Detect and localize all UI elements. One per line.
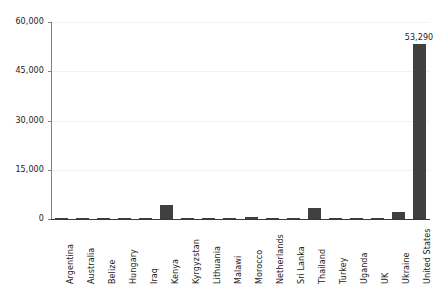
bar [97, 218, 110, 219]
bar [118, 218, 131, 219]
bar [287, 218, 300, 219]
y-axis-tick-label: 0 [0, 214, 44, 223]
bar [139, 218, 152, 219]
x-axis-line [51, 219, 430, 220]
bar [329, 218, 342, 219]
x-axis-label-morocco: Morocco [255, 250, 264, 284]
x-axis-label-ukraine: Ukraine [402, 252, 411, 284]
x-axis-label-thailand: Thailand [318, 249, 327, 284]
x-axis-label-kyrgyzstan: Kyrgyzstan [192, 239, 201, 284]
gridline [52, 71, 430, 72]
bar [350, 218, 363, 219]
x-axis-label-uk: UK [381, 273, 390, 284]
bar [223, 218, 236, 219]
bar [160, 205, 173, 219]
y-axis-line [51, 22, 52, 220]
x-axis-label-sri-lanka: Sri Lanka [297, 246, 306, 284]
bar-value-label: 53,290 [389, 33, 441, 42]
x-axis-label-australia: Australia [87, 248, 96, 284]
bar [181, 218, 194, 219]
y-axis-tick-label: 15,000 [0, 165, 44, 174]
y-axis-tick-label: 60,000 [0, 17, 44, 26]
gridline [52, 121, 430, 122]
x-axis-label-belize: Belize [108, 259, 117, 284]
bar [392, 212, 405, 219]
x-axis-label-turkey: Turkey [339, 257, 348, 284]
x-axis-label-argentina: Argentina [66, 244, 75, 284]
x-axis-label-netherlands: Netherlands [276, 234, 285, 284]
x-axis-label-lithuania: Lithuania [213, 246, 222, 284]
x-axis-label-malawi: Malawi [234, 256, 243, 284]
bar-chart: 015,00030,00045,00060,000 53,290 Argenti… [0, 0, 441, 290]
x-axis-label-uganda: Uganda [360, 253, 369, 285]
gridline [52, 22, 430, 23]
y-axis-tick-label: 30,000 [0, 116, 44, 125]
bar [371, 218, 384, 219]
x-axis-label-iraq: Iraq [150, 268, 159, 284]
y-axis-tick-label: 45,000 [0, 66, 44, 75]
bar [266, 218, 279, 219]
x-axis-label-united-states: United States [423, 229, 432, 284]
bar [202, 218, 215, 219]
x-axis-label-kenya: Kenya [171, 259, 180, 284]
gridline [52, 170, 430, 171]
bar [413, 44, 426, 219]
bar [55, 218, 68, 219]
x-axis-label-hungary: Hungary [129, 249, 138, 284]
bar [245, 217, 258, 219]
bar [76, 218, 89, 219]
bar [308, 208, 321, 219]
